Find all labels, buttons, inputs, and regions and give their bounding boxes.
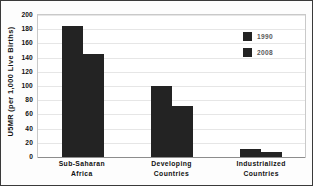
y-axis-tick-label: 140 bbox=[21, 53, 33, 60]
x-axis-category-label: IndustrializedCountries bbox=[216, 159, 306, 179]
legend-label: 1990 bbox=[257, 33, 273, 40]
legend-entry: 1990 bbox=[243, 30, 303, 43]
y-axis-tick-label: 40 bbox=[25, 124, 33, 131]
x-axis-category-label-line: Africa bbox=[37, 169, 127, 179]
chart-figure: U5MR (per 1,000 Live Births) 20018016014… bbox=[0, 0, 313, 186]
x-axis-category-label-line: Developing bbox=[151, 160, 192, 167]
y-axis-tick-label: 100 bbox=[21, 82, 33, 89]
bar bbox=[240, 149, 261, 157]
bar-group bbox=[127, 15, 216, 157]
y-axis-tick-label: 80 bbox=[25, 96, 33, 103]
bar bbox=[172, 106, 193, 157]
y-axis-tick-label: 200 bbox=[21, 11, 33, 18]
legend-swatch-2008 bbox=[243, 48, 252, 57]
y-axis-tick-label: 20 bbox=[25, 138, 33, 145]
y-axis-tick-label: 60 bbox=[25, 110, 33, 117]
x-axis-baseline bbox=[38, 157, 305, 158]
chart-legend: 19902008 bbox=[243, 30, 303, 62]
bar bbox=[151, 86, 172, 157]
legend-swatch-1990 bbox=[243, 32, 252, 41]
bar-group bbox=[38, 15, 127, 157]
bar bbox=[261, 152, 282, 157]
x-axis-category-label-line: Countries bbox=[127, 169, 217, 179]
x-axis-category-label: Sub-SaharanAfrica bbox=[37, 159, 127, 179]
y-axis-title-text: U5MR (per 1,000 Live Births) bbox=[6, 26, 15, 136]
y-axis-tick-label: 120 bbox=[21, 67, 33, 74]
y-axis-tick-labels: 200180160140120100806040200 bbox=[15, 10, 35, 158]
x-axis-category-labels: Sub-SaharanAfricaDevelopingCountriesIndu… bbox=[37, 159, 306, 186]
bar bbox=[83, 54, 104, 157]
x-axis-category-label: DevelopingCountries bbox=[127, 159, 217, 179]
x-axis-category-label-line: Sub-Saharan bbox=[59, 160, 105, 167]
x-axis-category-label-line: Industrialized bbox=[236, 160, 285, 167]
x-axis-category-label-line: Countries bbox=[216, 169, 306, 179]
y-axis-tick-label: 0 bbox=[29, 153, 33, 160]
legend-entry: 2008 bbox=[243, 46, 303, 59]
legend-label: 2008 bbox=[257, 49, 273, 56]
bar bbox=[62, 26, 83, 157]
plot-area: 19902008 bbox=[37, 14, 306, 158]
y-axis-tick-label: 180 bbox=[21, 25, 33, 32]
y-axis-tick-label: 160 bbox=[21, 39, 33, 46]
